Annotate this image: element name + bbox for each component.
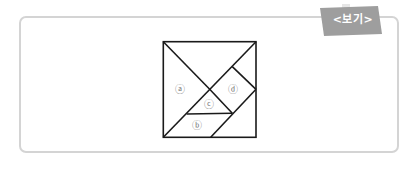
piece-a-label: ⓐ [175,84,185,95]
piece-c-label: ⓒ [204,99,214,110]
piece-d-label: ⓓ [228,84,238,95]
tangram-figure: ⓐ ⓑ ⓒ ⓓ [0,0,418,169]
piece-b-label: ⓑ [192,120,202,131]
